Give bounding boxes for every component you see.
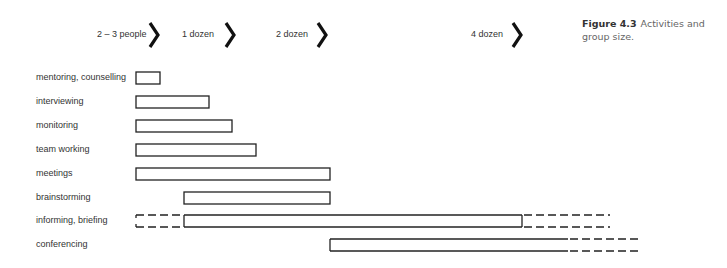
bar-conferencing — [330, 239, 640, 251]
bar-mentoring — [136, 72, 160, 84]
bar-interviewing — [136, 96, 209, 108]
bar-brainstorming — [184, 192, 330, 204]
activity-bars — [0, 0, 727, 268]
bar-meetings — [136, 168, 330, 180]
bar-monitoring — [136, 120, 232, 132]
bar-team-working — [136, 144, 256, 156]
bar-informing — [136, 215, 610, 227]
